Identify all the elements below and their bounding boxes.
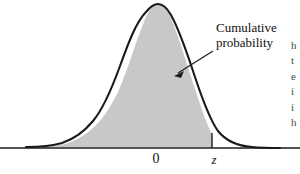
margin-text-line-6: h (291, 115, 300, 130)
margin-text-line-4: i (291, 84, 300, 99)
margin-text-line-1: h (291, 38, 300, 53)
normal-distribution-figure: Cumulative probability 0 z h t e i i h (0, 0, 300, 174)
margin-text-line-5: i (291, 100, 300, 115)
cumulative-probability-annotation: Cumulative probability (216, 20, 277, 50)
annotation-line-2: probability (216, 35, 277, 50)
annotation-line-1: Cumulative (216, 20, 277, 35)
cumulative-probability-area (36, 4, 212, 147)
margin-text-line-3: e (291, 69, 300, 84)
x-axis-tick-label-zero: 0 (146, 151, 166, 167)
x-axis-tick-label-z: z (204, 152, 224, 168)
clipped-margin-text: h t e i i h (291, 38, 300, 130)
margin-text-line-2: t (291, 53, 300, 68)
